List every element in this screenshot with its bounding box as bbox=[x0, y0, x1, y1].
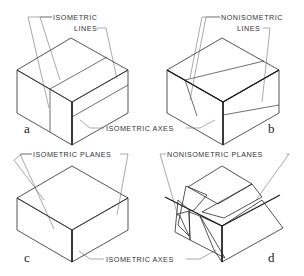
panel-c-top-face bbox=[17, 166, 128, 230]
panel-c: ISOMETRIC PLANES c bbox=[14, 150, 128, 265]
panel-d-leader-2 bbox=[256, 154, 289, 200]
panel-a-letter: a bbox=[24, 121, 30, 136]
panel-d: NONISOMETRIC PLANES d bbox=[160, 150, 289, 265]
panel-d-top-face bbox=[188, 166, 252, 204]
panel-b: NONISOMETRIC LINES b bbox=[167, 13, 283, 145]
panel-a-leader-2 bbox=[40, 17, 60, 80]
row2-label-isometric-axes: ISOMETRIC AXES bbox=[106, 255, 174, 264]
panel-a-right-face bbox=[72, 70, 128, 145]
panel-a-label-isometric: ISOMETRIC bbox=[53, 13, 97, 22]
isometric-diagram: ISOMETRIC LINES a NONISOMETRIC LINES b I… bbox=[0, 0, 304, 276]
panel-b-letter: b bbox=[268, 121, 275, 136]
panel-a-leader-axes bbox=[80, 120, 104, 128]
panel-c-right-face bbox=[72, 198, 128, 262]
row1-label-isometric-axes: ISOMETRIC AXES bbox=[106, 124, 174, 133]
panel-b-left-face bbox=[167, 70, 223, 145]
panel-b-leader-3 bbox=[262, 28, 270, 102]
panel-d-letter: d bbox=[268, 250, 275, 265]
panel-a-label-lines: LINES bbox=[74, 24, 97, 33]
panel-c-leader-1 bbox=[14, 154, 44, 200]
panel-b-label-lines: LINES bbox=[237, 24, 260, 33]
panel-d-leader-1 bbox=[160, 154, 178, 216]
panel-b-top-face bbox=[167, 38, 279, 102]
panel-a-top-face bbox=[17, 38, 128, 102]
panel-c-leader-2 bbox=[20, 154, 54, 229]
panel-c-label-isometric-planes: ISOMETRIC PLANES bbox=[33, 150, 111, 159]
panel-b-label-nonisometric: NONISOMETRIC bbox=[221, 13, 283, 22]
panel-d-label-nonisometric-planes: NONISOMETRIC PLANES bbox=[167, 150, 263, 159]
panel-d-mid-nonisometric-plane bbox=[202, 184, 262, 218]
panel-b-noniso-line-right bbox=[223, 105, 279, 115]
panel-c-leader-3 bbox=[117, 154, 128, 215]
panel-a-iso-line-right bbox=[72, 85, 128, 117]
panel-a-leader-3 bbox=[97, 28, 117, 79]
panel-d-axis-right bbox=[222, 195, 280, 226]
panel-b-leader-2 bbox=[190, 17, 220, 100]
panel-a-leader-1 bbox=[28, 17, 52, 108]
panel-a-iso-line-top bbox=[50, 57, 107, 89]
panel-c-leader-axes bbox=[79, 251, 104, 259]
panel-b-top-right-edge bbox=[223, 70, 279, 102]
panel-c-letter: c bbox=[24, 250, 30, 265]
